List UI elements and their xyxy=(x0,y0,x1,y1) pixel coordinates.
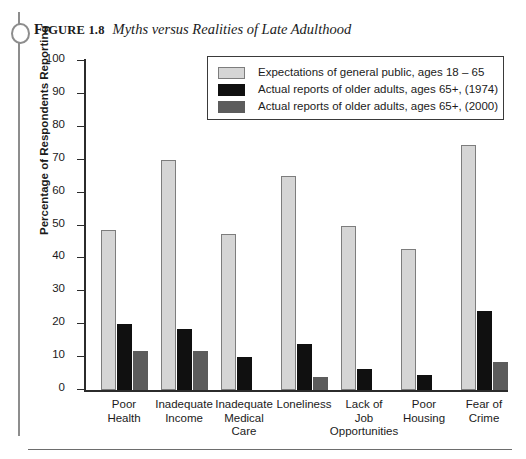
x-axis-line xyxy=(84,390,508,392)
y-axis-tick: 40 xyxy=(77,257,84,258)
figure-number: 1.8 xyxy=(88,23,104,37)
bar-series-3 xyxy=(313,377,328,390)
chart-legend: Expectations of general public, ages 18 … xyxy=(207,56,504,120)
legend-swatch xyxy=(218,84,245,96)
y-axis-tick-label: 40 xyxy=(52,249,65,261)
legend-label: Actual reports of older adults, ages 65+… xyxy=(258,100,498,112)
bar-series-2 xyxy=(297,344,312,390)
y-axis-tick: 0 xyxy=(77,389,84,390)
y-axis-tick: 90 xyxy=(77,93,84,94)
bar-series-1 xyxy=(221,234,236,390)
bar-series-1 xyxy=(101,230,116,390)
y-axis-tick-label: 100 xyxy=(46,52,65,64)
bar-series-1 xyxy=(401,249,416,390)
y-axis-tick: 60 xyxy=(77,192,84,193)
legend-label: Actual reports of older adults, ages 65+… xyxy=(258,83,498,95)
y-axis-tick: 80 xyxy=(77,126,84,127)
bar-series-1 xyxy=(461,145,476,390)
y-axis-tick-label: 50 xyxy=(52,217,65,229)
figure-caption: FIGURE 1.8Myths versus Realities of Late… xyxy=(34,20,351,38)
x-axis-category-label: Fear ofCrime xyxy=(436,398,526,425)
bar-series-3 xyxy=(493,362,508,390)
legend-label: Expectations of general public, ages 18 … xyxy=(258,66,484,78)
bar-series-2 xyxy=(237,357,252,390)
legend-swatch xyxy=(218,67,245,79)
bar-series-2 xyxy=(417,375,432,390)
y-axis-tick-label: 90 xyxy=(52,85,65,97)
bar-series-2 xyxy=(357,369,372,390)
y-axis-tick-label: 80 xyxy=(52,118,65,130)
y-axis-tick: 10 xyxy=(77,356,84,357)
y-axis-tick: 70 xyxy=(77,159,84,160)
bar-series-3 xyxy=(193,351,208,390)
y-axis-title: Percentage of Respondents Reporting xyxy=(38,45,50,235)
binder-spine-line xyxy=(18,12,20,436)
y-axis-tick-label: 30 xyxy=(52,282,65,294)
bar-series-1 xyxy=(341,226,356,391)
page-bottom-rule xyxy=(28,449,512,450)
bar-series-2 xyxy=(477,311,492,390)
y-axis-tick: 30 xyxy=(77,290,84,291)
bar-series-2 xyxy=(117,324,132,390)
y-axis-tick-label: 10 xyxy=(52,348,65,360)
bar-series-3 xyxy=(133,351,148,390)
bar-series-2 xyxy=(177,329,192,390)
y-axis-tick: 100 xyxy=(77,60,84,61)
y-axis-tick-label: 20 xyxy=(52,315,65,327)
y-axis-tick: 20 xyxy=(77,323,84,324)
y-axis-tick-label: 70 xyxy=(52,151,65,163)
figure-title: Myths versus Realities of Late Adulthood xyxy=(113,21,352,37)
y-axis-tick: 50 xyxy=(77,225,84,226)
legend-swatch xyxy=(218,101,245,113)
y-axis-tick-label: 0 xyxy=(59,381,65,393)
bar-series-1 xyxy=(281,176,296,390)
y-axis-tick-label: 60 xyxy=(52,184,65,196)
bar-series-1 xyxy=(161,160,176,390)
binder-ring-icon xyxy=(11,23,30,44)
